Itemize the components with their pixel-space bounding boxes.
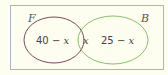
set-f-label: F (27, 12, 36, 25)
region-f-only-number: 40 (36, 35, 49, 46)
venn-diagram: F B 40 − x x 25 − x (0, 0, 168, 75)
region-b-only-number: 25 (101, 35, 114, 46)
region-f-only: 40 − x (36, 35, 69, 46)
region-intersection-var: x (83, 35, 89, 46)
region-f-only-op: − (49, 35, 64, 46)
region-f-only-var: x (63, 35, 69, 46)
region-b-only-var: x (128, 35, 134, 46)
region-b-only-op: − (114, 35, 129, 46)
set-b-label: B (140, 12, 149, 25)
region-b-only: 25 − x (101, 35, 134, 46)
region-intersection: x (83, 35, 89, 46)
